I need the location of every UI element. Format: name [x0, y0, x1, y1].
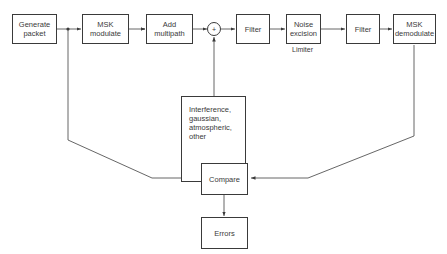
wire-demod-to-compare — [251, 136, 414, 178]
junction-dot — [66, 27, 69, 30]
msk-modulate-block: MSK modulate — [82, 14, 129, 44]
filter-block-1: Filter — [236, 14, 270, 44]
errors-block: Errors — [201, 217, 248, 249]
filter-block-2: Filter — [346, 14, 380, 44]
limiter-label: Limiter — [292, 46, 313, 53]
generate-packet-block: Generate packet — [12, 14, 57, 44]
compare-block: Compare — [201, 163, 248, 195]
noise-excision-block: Noise excision — [286, 14, 321, 44]
add-multipath-block: Add multipath — [146, 14, 193, 44]
msk-demodulate-block: MSK demodulate — [393, 14, 436, 44]
summer-circle: + — [207, 22, 221, 36]
